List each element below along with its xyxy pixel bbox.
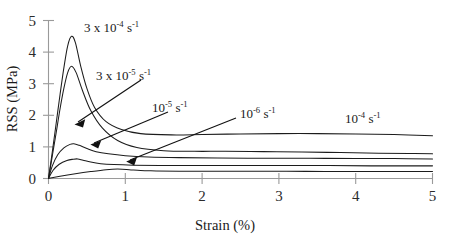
annotation-mantissa: 3 x 10 [84,20,117,35]
annotation-unit-exponent: -1 [132,19,139,29]
y-tick-labels: 5 4 3 2 1 0 [29,13,37,187]
annotations-group: 3 x 10-4 s-1 3 x 10-5 s-1 10-5 s-1 10-6 … [84,19,381,126]
annotation-exponent: -5 [129,67,136,77]
y-tick-label: 0 [29,171,37,187]
arrowhead-1e-6 [126,157,137,165]
annotation-unit-exponent: -1 [180,99,187,109]
x-tick-label: 0 [45,188,53,204]
annotation-unit-exponent: -1 [144,67,151,77]
annotation-3e-5: 3 x 10-5 s-1 [96,67,151,83]
x-axis-title: Strain (%) [195,217,255,234]
arrowhead-1e-5 [90,140,101,148]
annotation-mantissa: 10 [152,100,165,115]
y-tick-label: 4 [29,44,37,60]
annotation-1e-6: 10-6 s-1 [240,105,276,121]
annotation-1e-5: 10-5 s-1 [152,99,188,115]
x-tick-labels: 0 1 2 3 4 5 [45,188,437,204]
annotation-unit-exponent: -1 [268,105,275,115]
annotation-unit-exponent: -1 [373,110,380,120]
curve-3e-5 [49,66,433,178]
curve-1e-4 [49,169,433,178]
curve-1e-6 [49,159,433,179]
annotation-exponent: -5 [165,99,172,109]
axes-group [43,20,433,184]
leader-line-1e-6 [130,118,236,160]
curve-1e-5 [49,144,433,179]
annotation-mantissa: 10 [240,106,253,121]
x-tick-label: 2 [198,188,206,204]
x-tick-label: 1 [122,188,130,204]
leader-line-1e-5 [94,112,168,143]
leader-line-3e-5 [78,80,141,122]
y-tick-label: 1 [29,139,37,155]
annotation-3e-4: 3 x 10-4 s-1 [84,19,139,35]
annotation-mantissa: 10 [345,111,358,126]
annotation-mantissa: 3 x 10 [96,68,129,83]
x-tick-label: 3 [275,188,283,204]
y-tick-label: 5 [29,13,37,29]
stress-strain-chart: 5 4 3 2 1 0 0 1 2 3 4 5 Strain (%) RSS (… [0,0,449,244]
annotation-1e-4: 10-4 s-1 [345,110,381,126]
y-axis-title: RSS (MPa) [4,66,21,133]
y-tick-label: 3 [29,76,37,92]
x-tick-label: 5 [429,188,437,204]
x-tick-label: 4 [352,188,360,204]
chart-canvas: 5 4 3 2 1 0 0 1 2 3 4 5 Strain (%) RSS (… [0,0,449,244]
y-tick-label: 2 [29,107,37,123]
